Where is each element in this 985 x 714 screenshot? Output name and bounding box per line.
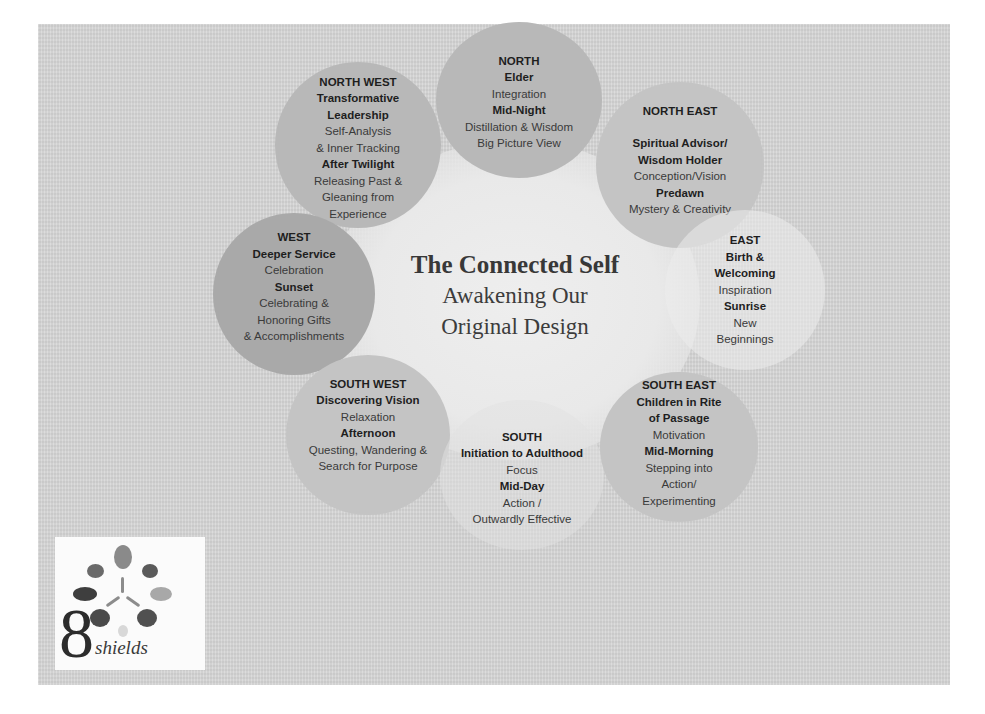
eight-shields-logo: 8 shields [55, 537, 205, 670]
east-role-2: Welcoming [714, 265, 775, 282]
north-west-quality-1: Self-Analysis [325, 123, 391, 140]
south-desc-2: Outwardly Effective [473, 511, 572, 528]
south-west-role: Discovering Vision [316, 392, 419, 409]
diagram-subtitle-1: Awakening Our [380, 280, 650, 311]
east-time: Sunrise [724, 298, 766, 315]
north-desc-1: Distillation & Wisdom [465, 119, 573, 136]
north-quality: Integration [492, 86, 546, 103]
south-east-desc-3: Experimenting [642, 493, 716, 510]
north-time: Mid-Night [492, 102, 545, 119]
south-quality: Focus [506, 462, 537, 479]
pebble-icon-northeast [142, 564, 158, 578]
west-heading: WEST [277, 229, 310, 246]
pebble-icon-south [118, 625, 128, 637]
south-east-quality: Motivation [653, 427, 705, 444]
circle-west: WEST Deeper Service Celebration Sunset C… [213, 213, 375, 375]
circle-north-west: NORTH WEST Transformative Leadership Sel… [275, 62, 441, 228]
pebble-icon-north [114, 545, 132, 569]
pebble-icon-southeast [137, 609, 157, 627]
west-desc-1: Celebrating & [259, 295, 329, 312]
circle-north: NORTH Elder Integration Mid-Night Distil… [436, 22, 602, 178]
south-east-time: Mid-Morning [645, 443, 714, 460]
center-title-block: The Connected Self Awakening Our Origina… [380, 250, 650, 342]
south-west-quality: Relaxation [341, 409, 395, 426]
circle-east: EAST Birth & Welcoming Inspiration Sunri… [665, 210, 825, 370]
north-west-heading: NORTH WEST [319, 74, 396, 91]
circle-south: SOUTH Initiation to Adulthood Focus Mid-… [440, 400, 604, 550]
logo-wordmark: shields [95, 637, 148, 659]
north-west-role-2: Leadership [327, 107, 388, 124]
south-east-role-2: of Passage [649, 410, 710, 427]
north-west-quality-2: & Inner Tracking [316, 140, 400, 157]
east-desc-1: New [733, 315, 756, 332]
stick-icon-vertical [121, 577, 124, 593]
north-east-heading: NORTH EAST [643, 103, 718, 120]
west-time: Sunset [275, 279, 313, 296]
pebble-icon-east [150, 587, 172, 601]
north-desc-2: Big Picture View [477, 135, 561, 152]
logo-numeral: 8 [59, 599, 94, 669]
south-east-heading: SOUTH EAST [642, 377, 716, 394]
south-west-desc-2: Search for Purpose [318, 458, 417, 475]
north-heading: NORTH [499, 53, 540, 70]
south-east-role-1: Children in Rite [637, 394, 722, 411]
north-east-time: Predawn [656, 185, 704, 202]
north-east-quality: Conception/Vision [634, 168, 727, 185]
south-east-desc-1: Stepping into [645, 460, 712, 477]
diagram-subtitle-2: Original Design [380, 311, 650, 342]
south-west-desc-1: Questing, Wandering & [309, 442, 427, 459]
north-west-desc-2: Gleaning from [322, 189, 394, 206]
west-desc-2: Honoring Gifts [257, 312, 331, 329]
north-east-role-1: Spiritual Advisor/ [633, 135, 728, 152]
north-role: Elder [505, 69, 534, 86]
south-role: Initiation to Adulthood [461, 445, 583, 462]
west-quality: Celebration [265, 262, 324, 279]
west-role: Deeper Service [252, 246, 335, 263]
east-heading: EAST [730, 232, 761, 249]
north-east-role-2: Wisdom Holder [638, 152, 722, 169]
south-time: Mid-Day [500, 478, 545, 495]
south-west-time: Afternoon [341, 425, 396, 442]
south-west-heading: SOUTH WEST [330, 376, 407, 393]
south-east-desc-2: Action/ [661, 476, 696, 493]
circle-south-west: SOUTH WEST Discovering Vision Relaxation… [286, 355, 450, 515]
diagram-title: The Connected Self [380, 250, 650, 280]
east-desc-2: Beginnings [717, 331, 774, 348]
east-role-1: Birth & [726, 249, 764, 266]
north-west-desc-1: Releasing Past & [314, 173, 402, 190]
circle-south-east: SOUTH EAST Children in Rite of Passage M… [600, 372, 758, 522]
south-desc-1: Action / [503, 495, 541, 512]
pebble-icon-northwest [87, 564, 104, 578]
east-quality: Inspiration [718, 282, 771, 299]
north-west-time: After Twilight [322, 156, 395, 173]
north-west-desc-3: Experience [329, 206, 387, 223]
stick-icon-left [106, 596, 121, 608]
west-desc-3: & Accomplishments [244, 328, 344, 345]
south-heading: SOUTH [502, 429, 542, 446]
stick-icon-right [126, 596, 141, 608]
north-west-role-1: Transformative [317, 90, 399, 107]
